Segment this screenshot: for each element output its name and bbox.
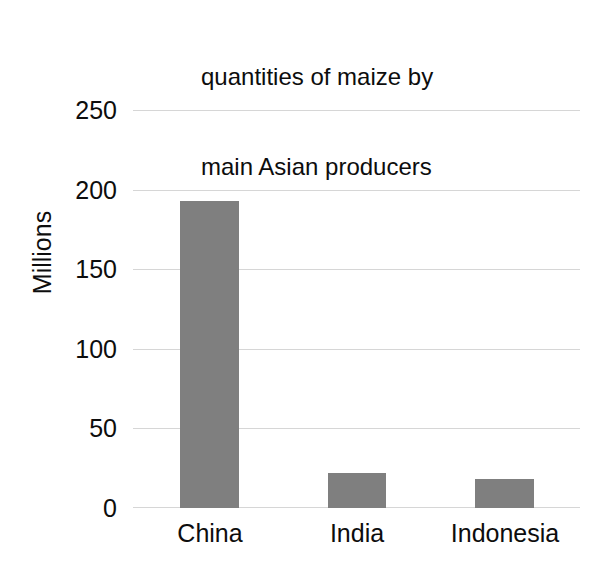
bars-layer: [133, 110, 580, 508]
x-tick-label-china: China: [150, 518, 270, 548]
y-tick-label-50: 50: [7, 416, 117, 441]
x-tick-label-india: India: [297, 518, 417, 548]
bar-china[interactable]: [180, 201, 239, 508]
y-tick-label-0: 0: [7, 496, 117, 521]
x-tick-label-indonesia: Indonesia: [440, 518, 570, 548]
y-tick-label-250: 250: [7, 98, 117, 123]
bar-chart: quantities of maize by main Asian produc…: [0, 0, 602, 582]
y-axis-tick-labels: 250 200 150 100 50 0: [0, 110, 117, 508]
x-axis-tick-labels: China India Indonesia: [133, 518, 580, 558]
y-tick-label-200: 200: [7, 178, 117, 203]
bar-india[interactable]: [328, 473, 386, 508]
bar-indonesia[interactable]: [475, 479, 534, 508]
y-tick-label-100: 100: [7, 337, 117, 362]
y-tick-label-150: 150: [7, 257, 117, 282]
chart-title-line-1: quantities of maize by: [201, 62, 581, 92]
